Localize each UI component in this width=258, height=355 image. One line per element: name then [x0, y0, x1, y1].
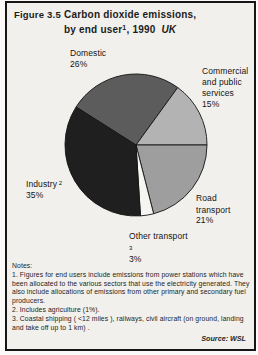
note-item: 2. Includes agriculture (1%).	[12, 306, 252, 315]
source-credit: Source: WSL	[201, 334, 246, 343]
note-item: 3. Coastal shipping ( <12 miles ), railw…	[12, 315, 252, 333]
figure-title: Carbon dioxide emissions, by end user1, …	[64, 9, 249, 36]
pie-label-other-transport: Other transport 33%	[129, 231, 191, 265]
pie-label-domestic: Domestic26%	[70, 47, 140, 69]
region-label: UK	[161, 24, 176, 35]
title-line1: Carbon dioxide emissions,	[64, 9, 196, 20]
pie-label-road-transport: Road transport21%	[196, 193, 246, 226]
figure-frame: Figure 3.5 Carbon dioxide emissions, by …	[5, 1, 256, 351]
notes-list: 1. Figures for end users include emissio…	[12, 271, 252, 333]
notes-heading: Notes:	[12, 262, 252, 271]
pie-label-commercial-public-services: Commercial and public services15%	[202, 66, 254, 109]
title-line2: by end user1, 1990UK	[64, 24, 176, 35]
pie-label-industry: Industry 235%	[26, 178, 86, 200]
figure-number-label: Figure 3.5	[14, 9, 61, 20]
note-item: 1. Figures for end users include emissio…	[12, 271, 252, 306]
notes-block: Notes: 1. Figures for end users include …	[12, 262, 252, 332]
